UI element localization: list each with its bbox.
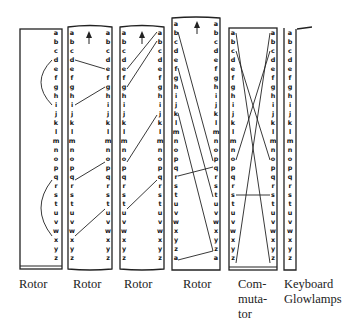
letter-h: h: [214, 83, 219, 91]
letter-e: e: [122, 65, 127, 73]
letter-v: v: [288, 218, 293, 226]
letter-m: m: [230, 137, 237, 145]
rotor-4-label: Rotor: [183, 277, 212, 291]
letter-f: f: [159, 74, 162, 82]
letter-z: z: [122, 254, 126, 262]
letter-p: p: [106, 164, 111, 172]
letter-r: r: [122, 182, 126, 190]
letter-e: e: [54, 65, 59, 73]
letter-a: a: [70, 29, 74, 37]
rotor-3: aabbccddeeffgghhiijjkkllmmnnooppqqrrsstt…: [120, 26, 164, 271]
letter-q: q: [122, 173, 127, 181]
letter-i: i: [215, 92, 217, 100]
letter-h: h: [271, 92, 276, 100]
rotor-1-label: Rotor: [19, 277, 48, 291]
letter-d: d: [214, 47, 219, 55]
letter-a: a: [54, 29, 58, 37]
letter-s: s: [271, 191, 275, 199]
rotor-2-wire-d-e: [75, 60, 105, 69]
letter-q: q: [271, 173, 276, 181]
letter-w: w: [287, 227, 293, 235]
letter-d: d: [158, 56, 163, 64]
letter-y: y: [288, 245, 293, 253]
letter-v: v: [231, 218, 236, 226]
rotor-4: aabbccddeeffgghhiijjkkllmmnnooppqqrrsstt…: [172, 17, 220, 270]
letter-k: k: [231, 119, 236, 127]
letter-s: s: [288, 191, 292, 199]
letter-k: k: [214, 110, 219, 118]
letter-t: t: [174, 191, 177, 199]
letter-t: t: [158, 200, 161, 208]
letter-g: g: [158, 83, 163, 91]
letter-g: g: [70, 83, 75, 91]
letter-b: b: [288, 38, 293, 46]
letter-j: j: [231, 110, 234, 118]
letter-i: i: [175, 92, 177, 100]
letter-e: e: [70, 65, 75, 73]
rotor-4-wire-b-p: [178, 32, 213, 161]
commutator-label-3: tor: [238, 307, 253, 321]
letter-f: f: [107, 74, 110, 82]
letter-z: z: [54, 254, 58, 262]
letter-r: r: [106, 182, 110, 190]
letter-l: l: [272, 128, 274, 136]
letter-z: z: [288, 254, 292, 262]
letter-h: h: [122, 92, 127, 100]
letter-j: j: [288, 110, 291, 118]
letter-e: e: [214, 56, 219, 64]
letter-c: c: [122, 47, 126, 55]
letter-q: q: [288, 173, 293, 181]
letter-l: l: [215, 119, 217, 127]
letter-n: n: [122, 146, 127, 154]
letter-c: c: [231, 47, 235, 55]
letter-z: z: [231, 254, 235, 262]
letter-f: f: [123, 74, 126, 82]
letter-h: h: [54, 92, 59, 100]
letter-i: i: [107, 101, 109, 109]
letter-u: u: [70, 209, 75, 217]
letter-v: v: [174, 209, 179, 217]
letter-o: o: [288, 155, 293, 163]
letter-o: o: [158, 155, 163, 163]
letter-c: c: [288, 47, 292, 55]
letter-o: o: [174, 146, 179, 154]
letter-o: o: [122, 155, 127, 163]
letter-b: b: [214, 29, 219, 37]
rotor-2-wire-i-g: [75, 87, 105, 105]
letter-p: p: [54, 164, 59, 172]
letter-y: y: [231, 245, 236, 253]
rotor-3-wire-u-q: [127, 180, 157, 209]
rotor-wiring-diagram: abcdefghijklmnopqrstuvwxyz aabbccddeeffg…: [0, 0, 360, 329]
up-arrow-icon: [86, 31, 92, 44]
letter-d: d: [174, 47, 179, 55]
letter-s: s: [70, 191, 74, 199]
letter-j: j: [271, 110, 274, 118]
letter-g: g: [288, 83, 293, 91]
letter-c: c: [271, 47, 275, 55]
letter-g: g: [106, 83, 111, 91]
letter-s: s: [214, 182, 218, 190]
letter-m: m: [287, 137, 294, 145]
rotor-2-letters: aabbccddeeffgghhiijjkkllmmnnooppqqrrsstt…: [69, 29, 112, 262]
letter-n: n: [174, 137, 179, 145]
letter-c: c: [54, 47, 58, 55]
letter-k: k: [106, 119, 111, 127]
letter-e: e: [288, 65, 293, 73]
letter-g: g: [271, 83, 276, 91]
letter-a: a: [214, 20, 218, 28]
letter-b: b: [122, 38, 127, 46]
letter-s: s: [54, 191, 58, 199]
letter-e: e: [158, 65, 163, 73]
letter-t: t: [122, 200, 125, 208]
letter-g: g: [174, 74, 179, 82]
letter-j: j: [70, 110, 73, 118]
letter-k: k: [288, 119, 293, 127]
letter-x: x: [122, 236, 127, 244]
letter-f: f: [55, 74, 58, 82]
letter-j: j: [106, 110, 109, 118]
letter-q: q: [70, 173, 75, 181]
letter-m: m: [121, 137, 128, 145]
letter-q: q: [158, 173, 163, 181]
letter-j: j: [214, 101, 217, 109]
letter-s: s: [231, 191, 235, 199]
